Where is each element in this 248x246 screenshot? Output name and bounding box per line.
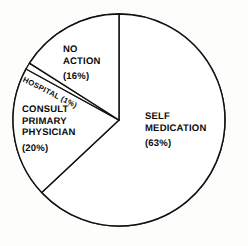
slice-label-no-action: NO ACTION (16%) [63, 44, 101, 83]
slice-percent-no-action: (16%) [63, 71, 101, 83]
slice-label-consult-primary-physician: CONSULT PRIMARY PHYSICIAN (20%) [22, 104, 76, 154]
slice-percent-self-medication: (63%) [145, 138, 206, 150]
slice-label-consult-line1: CONSULT [22, 104, 69, 115]
slice-percent-consult: (20%) [22, 143, 76, 155]
pie-chart-figure: NO ACTION (16%) SELF MEDICATION (63%) CO… [0, 0, 248, 246]
slice-label-self-medication: SELF MEDICATION (63%) [145, 111, 206, 150]
slice-label-consult-line2: PRIMARY [22, 116, 67, 127]
slice-label-self-medication-line1: SELF [145, 111, 170, 122]
slice-label-no-action-line1: NO [63, 44, 78, 55]
slice-label-consult-line3: PHYSICIAN [22, 127, 76, 138]
slice-label-no-action-line2: ACTION [63, 56, 101, 67]
slice-label-self-medication-line2: MEDICATION [145, 123, 206, 134]
